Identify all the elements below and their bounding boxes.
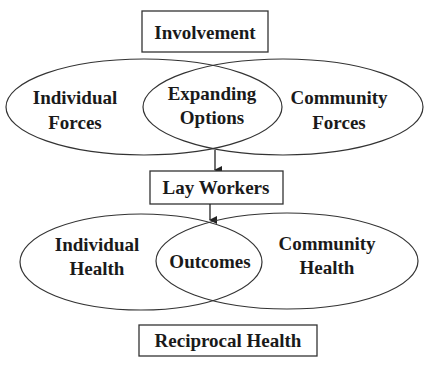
reciprocal-health-label: Reciprocal Health <box>155 330 302 351</box>
lower-venn: Individual Health Outcomes Community Hea… <box>20 213 418 310</box>
involvement-label: Involvement <box>154 22 256 43</box>
lay-workers-label: Lay Workers <box>163 177 270 198</box>
individual-health-line1: Individual <box>55 234 140 255</box>
outcomes-label: Outcomes <box>169 251 250 272</box>
individual-forces-line2: Forces <box>48 112 101 133</box>
community-forces-line1: Community <box>290 87 388 108</box>
community-forces-line2: Forces <box>312 112 365 133</box>
individual-forces-line1: Individual <box>33 87 118 108</box>
community-health-line1: Community <box>278 233 376 254</box>
reciprocal-health-box: Reciprocal Health <box>139 325 317 356</box>
upper-venn: Individual Forces Expanding Options Comm… <box>6 59 423 155</box>
expanding-options-line2: Options <box>180 107 244 128</box>
lay-workers-box: Lay Workers <box>150 171 283 204</box>
diagram-canvas: Involvement Individual Forces Expanding … <box>0 0 431 368</box>
individual-health-line2: Health <box>70 258 125 279</box>
expanding-options-line1: Expanding <box>168 83 257 104</box>
involvement-box: Involvement <box>142 11 268 52</box>
community-health-line2: Health <box>300 257 355 278</box>
